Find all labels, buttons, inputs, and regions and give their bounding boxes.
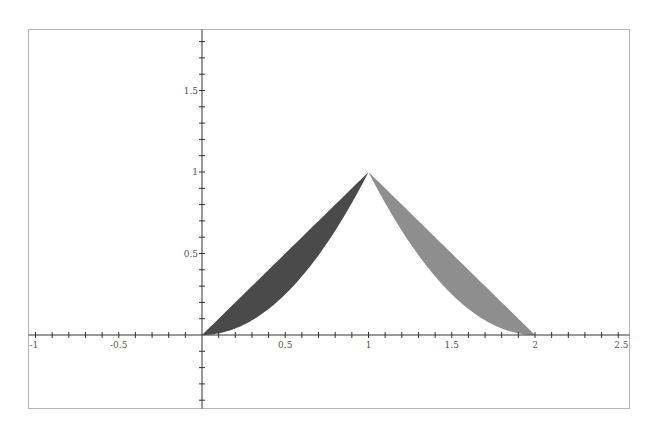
y-tick-label: 1.5 xyxy=(184,86,199,96)
x-tick-label: 0.5 xyxy=(278,340,293,350)
plot-canvas: -1-0.50.511.522.50.511.5 xyxy=(0,0,647,433)
y-tick-label: 1 xyxy=(192,167,198,177)
x-tick-label: 2 xyxy=(532,340,538,350)
y-tick-label: 0.5 xyxy=(184,249,199,259)
x-tick-label: -0.5 xyxy=(110,340,128,350)
x-tick-label: -1 xyxy=(30,340,39,350)
x-tick-label: 2.5 xyxy=(614,340,629,350)
x-tick-label: 1 xyxy=(366,340,372,350)
x-tick-label: 1.5 xyxy=(445,340,460,350)
